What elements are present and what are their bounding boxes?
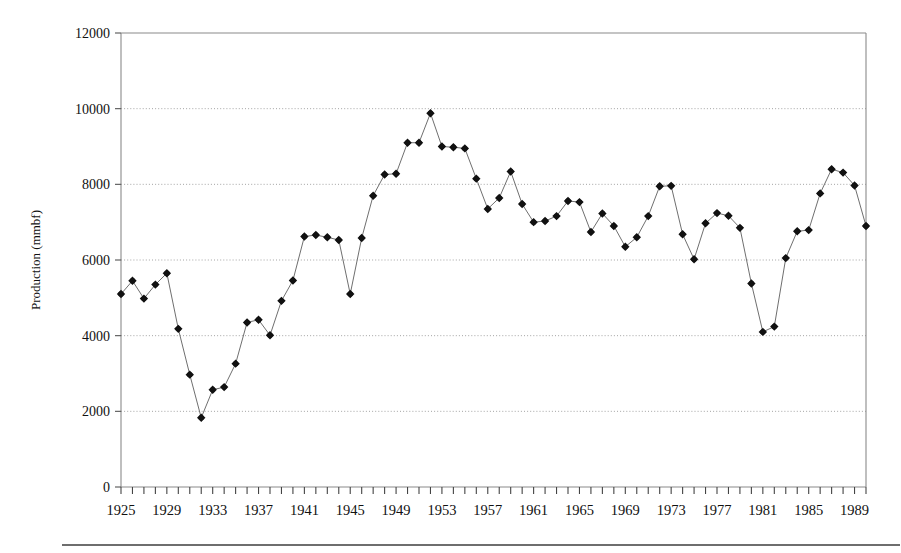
marker-dot (325, 235, 330, 240)
marker-dot (588, 229, 593, 234)
marker-dot (565, 198, 570, 203)
marker-dot (267, 333, 272, 338)
x-tick-label-group: 1925192919331937194119451949195319571961… (107, 502, 870, 518)
marker-dot (474, 176, 479, 181)
marker-dot (451, 145, 456, 150)
marker-dot (221, 384, 226, 389)
x-tick-group (121, 487, 866, 494)
marker-dot (852, 183, 857, 188)
marker-dot (256, 317, 261, 322)
marker-dot (783, 255, 788, 260)
marker-dot (737, 225, 742, 230)
marker-dot (772, 324, 777, 329)
y-tick-label-8000: 8000 (82, 177, 110, 192)
marker-dot (497, 195, 502, 200)
marker-dot (646, 213, 651, 218)
marker-dot (416, 140, 421, 145)
y-tick-group (115, 33, 121, 487)
marker-dot (405, 140, 410, 145)
marker-dot (577, 199, 582, 204)
marker-dot (795, 229, 800, 234)
marker-dot (749, 281, 754, 286)
marker-dot (863, 223, 868, 228)
x-tick-label-1937: 1937 (244, 502, 273, 518)
y-tick-label-4000: 4000 (82, 329, 110, 344)
marker-dot (691, 257, 696, 262)
y-tick-label-12000: 12000 (75, 26, 110, 41)
marker-dot (187, 372, 192, 377)
y-tick-label-6000: 6000 (82, 253, 110, 268)
marker-dot (680, 232, 685, 237)
y-tick-label-0: 0 (103, 480, 110, 495)
production-line-chart: 020004000600080001000012000 192519291933… (0, 0, 901, 553)
marker-dot (531, 219, 536, 224)
marker-dot (462, 146, 467, 151)
x-tick-label-1981: 1981 (748, 502, 777, 518)
marker-dot (302, 234, 307, 239)
marker-dot (336, 237, 341, 242)
x-tick-label-1933: 1933 (198, 502, 227, 518)
marker-dot (118, 291, 123, 296)
marker-dot (176, 326, 181, 331)
x-tick-label-1941: 1941 (290, 502, 319, 518)
marker-dot (668, 183, 673, 188)
marker-dot (519, 201, 524, 206)
marker-dot (428, 111, 433, 116)
marker-dot (199, 415, 204, 420)
marker-dot (806, 227, 811, 232)
marker-dot (840, 170, 845, 175)
marker-dot (348, 291, 353, 296)
marker-dot (623, 244, 628, 249)
x-tick-label-1949: 1949 (382, 502, 411, 518)
marker-dot (760, 329, 765, 334)
marker-dot (279, 298, 284, 303)
marker-dot (244, 320, 249, 325)
marker-dot (313, 232, 318, 237)
marker-dot (542, 218, 547, 223)
x-tick-label-1961: 1961 (519, 502, 548, 518)
marker-dot (210, 387, 215, 392)
marker-dot (153, 282, 158, 287)
marker-dot (817, 191, 822, 196)
y-tick-label-2000: 2000 (82, 404, 110, 419)
x-tick-label-1929: 1929 (152, 502, 181, 518)
marker-dot (714, 210, 719, 215)
x-tick-label-1945: 1945 (336, 502, 365, 518)
marker-dot (611, 223, 616, 228)
marker-dot (233, 361, 238, 366)
y-axis-title: Production (mmbf) (28, 210, 43, 310)
marker-dot (634, 235, 639, 240)
marker-dot (382, 172, 387, 177)
marker-dot (508, 169, 513, 174)
bottom-horizontal-rule (62, 544, 900, 546)
marker-dot (439, 144, 444, 149)
marker-dot (141, 296, 146, 301)
x-tick-label-1953: 1953 (427, 502, 456, 518)
marker-dot (359, 235, 364, 240)
marker-dot (829, 167, 834, 172)
marker-dot (600, 211, 605, 216)
y-tick-label-10000: 10000 (75, 102, 110, 117)
x-tick-label-1989: 1989 (840, 502, 869, 518)
marker-dot (130, 278, 135, 283)
marker-dot (726, 213, 731, 218)
marker-dot (290, 278, 295, 283)
x-tick-label-1973: 1973 (657, 502, 686, 518)
x-tick-label-1965: 1965 (565, 502, 594, 518)
marker-dot (703, 221, 708, 226)
x-tick-label-1977: 1977 (703, 502, 732, 518)
figure-container: 020004000600080001000012000 192519291933… (0, 0, 901, 553)
marker-dot (393, 171, 398, 176)
marker-dot (657, 184, 662, 189)
marker-dot (370, 193, 375, 198)
x-tick-label-1925: 1925 (107, 502, 136, 518)
x-tick-label-1969: 1969 (611, 502, 640, 518)
x-tick-label-1957: 1957 (473, 502, 502, 518)
marker-dot (485, 206, 490, 211)
y-tick-label-group: 020004000600080001000012000 (75, 26, 110, 495)
marker-dot (164, 271, 169, 276)
marker-dot (554, 213, 559, 218)
x-tick-label-1985: 1985 (794, 502, 823, 518)
